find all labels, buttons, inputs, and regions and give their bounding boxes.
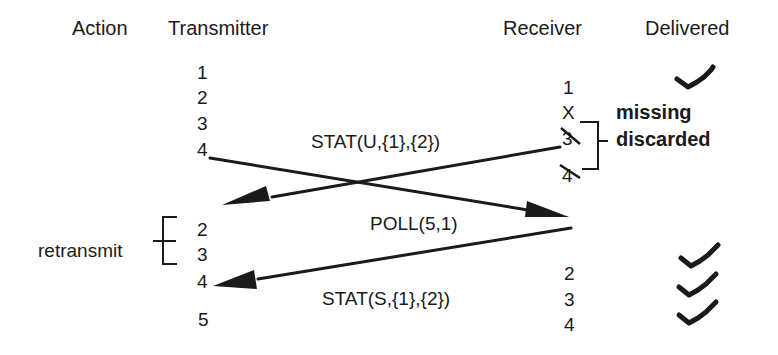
check-icon <box>679 302 716 323</box>
strike-frame-3 <box>561 128 580 144</box>
diagram-graphics <box>0 0 778 355</box>
strike-frame-4 <box>560 165 580 178</box>
missing-discarded-bracket <box>580 122 598 169</box>
check-icon <box>681 245 718 266</box>
arrow-stat-s <box>258 228 571 279</box>
arrowhead-left-icon <box>222 186 270 205</box>
check-icon <box>679 274 716 295</box>
arrowhead-right-icon <box>525 201 569 217</box>
arrowhead-left-icon <box>213 270 257 289</box>
check-icon <box>677 67 713 87</box>
arrow-frame4-to-receiver <box>210 158 540 212</box>
arrow-stat-u <box>272 147 560 197</box>
